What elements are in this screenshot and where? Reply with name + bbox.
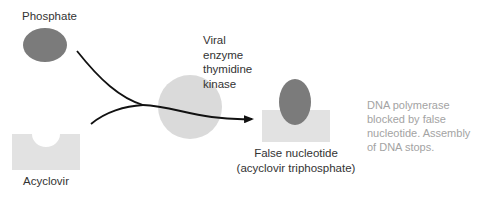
enzyme-label-line: kinase [203, 77, 252, 92]
note-line: blocked by false [367, 112, 470, 126]
phosphate-label: Phosphate [22, 10, 77, 23]
enzyme-label-line: enzyme [203, 48, 252, 63]
false-nucleotide-label-line: (acyclovir triphosphate) [230, 161, 362, 176]
false-nucleotide-label-line: False nucleotide [230, 146, 362, 161]
phosphate-shape [23, 28, 67, 62]
enzyme-label-line: Viral [203, 33, 252, 48]
false-nucleotide-label: False nucleotide (acyclovir triphosphate… [230, 146, 362, 175]
note-line: nucleotide. Assembly [367, 126, 470, 140]
acyclovir-label: Acyclovir [6, 175, 86, 188]
false-nucleotide-phosphate [279, 79, 311, 125]
dna-polymerase-note: DNA polymerase blocked by false nucleoti… [367, 98, 470, 154]
acyclovir-shape [12, 134, 80, 170]
enzyme-label-line: thymidine [203, 62, 252, 77]
note-line: DNA polymerase [367, 98, 470, 112]
note-line: of DNA stops. [367, 140, 470, 154]
acyclovir-path-arrow [91, 105, 143, 124]
phosphate-path-arrow [77, 51, 143, 105]
enzyme-label: Viral enzyme thymidine kinase [203, 33, 252, 91]
